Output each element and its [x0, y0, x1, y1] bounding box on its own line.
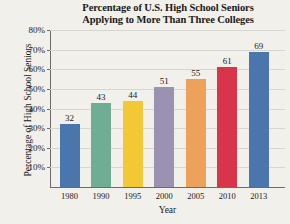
- x-tick-label: 1995: [124, 191, 141, 201]
- bar-value-label: 51: [160, 76, 169, 86]
- y-tick-label: 10%: [29, 162, 46, 172]
- bar-value-label: 69: [254, 41, 263, 51]
- bar-group: 44: [123, 30, 143, 187]
- bar-value-label: 55: [191, 68, 200, 78]
- bar-chart: Percentage of U.S. High School Seniors A…: [0, 0, 290, 224]
- bar-group: 51: [154, 30, 174, 187]
- x-tick-label: 2000: [156, 191, 173, 201]
- bar-series: 32434451556169: [50, 30, 285, 187]
- chart-title-line-2: Applying to More Than Three Colleges: [48, 14, 288, 26]
- bar: [186, 79, 206, 187]
- y-tick-label: 40%: [29, 104, 46, 114]
- x-axis-line: [50, 187, 285, 188]
- y-tick-label: 70%: [29, 45, 46, 55]
- y-tick-label: 50%: [29, 84, 46, 94]
- bar-group: 43: [91, 30, 111, 187]
- bar: [154, 87, 174, 187]
- x-tick-label: 2010: [219, 191, 236, 201]
- bar-value-label: 61: [223, 56, 232, 66]
- x-tick-label: 1980: [61, 191, 78, 201]
- plot-area: 10%20%30%40%50%60%70%80% 32434451556169 …: [50, 30, 285, 188]
- chart-title: Percentage of U.S. High School Seniors A…: [48, 2, 288, 25]
- x-tick-label: 2005: [187, 191, 204, 201]
- x-tick-label: 2013: [250, 191, 267, 201]
- bar-value-label: 32: [65, 113, 74, 123]
- bar: [123, 101, 143, 187]
- bar-group: 55: [186, 30, 206, 187]
- bar-value-label: 44: [128, 90, 137, 100]
- y-tick-label: 60%: [29, 64, 46, 74]
- y-tick-label: 30%: [29, 123, 46, 133]
- x-tick-label: 1990: [93, 191, 110, 201]
- bar-group: 61: [217, 30, 237, 187]
- bar: [217, 67, 237, 187]
- x-axis-label: Year: [50, 205, 285, 215]
- chart-title-line-1: Percentage of U.S. High School Seniors: [48, 2, 288, 14]
- y-tick-label: 20%: [29, 143, 46, 153]
- bar: [91, 103, 111, 187]
- bar: [60, 124, 80, 187]
- bar-group: 32: [60, 30, 80, 187]
- bar: [249, 52, 269, 187]
- y-tick-label: 80%: [29, 25, 46, 35]
- bar-group: 69: [249, 30, 269, 187]
- bar-value-label: 43: [97, 92, 106, 102]
